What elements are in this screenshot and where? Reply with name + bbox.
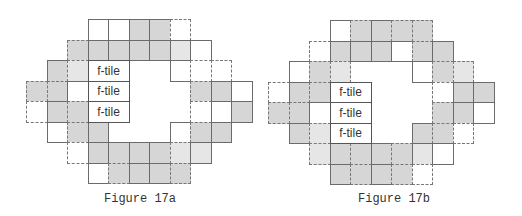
tile-cell: [432, 102, 454, 124]
tile-cell: [453, 82, 475, 104]
tile-cell: [330, 61, 352, 83]
tile-cell: [268, 82, 290, 104]
tile-cell: [108, 40, 130, 62]
tile-cell: [211, 101, 233, 123]
tile-cell: [67, 60, 89, 82]
tile-cell: [350, 164, 372, 186]
tile-cell: [88, 19, 110, 41]
tile-cell: [330, 20, 352, 42]
tile-cell: [88, 142, 110, 164]
tile-cell: [47, 101, 69, 123]
f-tile: f-tile: [330, 82, 372, 104]
caption-17b: Figure 17b: [358, 192, 430, 206]
tile-cell: [170, 122, 192, 144]
tile-cell: [371, 41, 393, 63]
tile-cell: [289, 102, 311, 124]
tile-cell: [129, 163, 151, 185]
tile-cell: [391, 20, 413, 42]
tile-cell: [391, 164, 413, 186]
tile-cell: [473, 82, 495, 104]
tile-cell: [190, 60, 212, 82]
tile-cell: [330, 164, 352, 186]
tile-cell: [309, 102, 331, 124]
tile-cell: [47, 122, 69, 144]
f-tile: f-tile: [88, 60, 130, 82]
tile-cell: [350, 41, 372, 63]
tile-cell: [412, 20, 434, 42]
caption-17a: Figure 17a: [104, 192, 176, 206]
tile-cell: [211, 81, 233, 103]
tile-cell: [129, 40, 151, 62]
tile-cell: [88, 40, 110, 62]
tile-cell: [149, 163, 171, 185]
tile-cell: [211, 60, 233, 82]
tile-cell: [309, 41, 331, 63]
tile-cell: [309, 61, 331, 83]
tile-cell: [190, 81, 212, 103]
tile-cell: [330, 41, 352, 63]
tile-cell: [371, 20, 393, 42]
tile-cell: [371, 143, 393, 165]
tile-cell: [149, 19, 171, 41]
tile-cell: [67, 101, 89, 123]
tile-cell: [129, 142, 151, 164]
tile-cell: [473, 102, 495, 124]
tile-cell: [350, 143, 372, 165]
tile-cell: [330, 143, 352, 165]
tile-cell: [309, 123, 331, 145]
tile-cell: [190, 142, 212, 164]
tile-cell: [432, 143, 454, 165]
tile-cell: [190, 40, 212, 62]
f-tile: f-tile: [88, 81, 130, 103]
tile-cell: [391, 143, 413, 165]
tile-cell: [350, 20, 372, 42]
f-tile: f-tile: [330, 102, 372, 124]
tile-cell: [67, 40, 89, 62]
tile-cell: [170, 142, 192, 164]
tile-cell: [67, 122, 89, 144]
tile-cell: [412, 41, 434, 63]
tile-cell: [108, 19, 130, 41]
tile-cell: [309, 143, 331, 165]
tile-cell: [289, 61, 311, 83]
tile-cell: [412, 143, 434, 165]
tile-cell: [149, 142, 171, 164]
tile-cell: [88, 163, 110, 185]
f-tile: f-tile: [330, 123, 372, 145]
tile-cell: [289, 123, 311, 145]
tile-cell: [67, 81, 89, 103]
tile-cell: [26, 101, 48, 123]
tile-cell: [412, 61, 434, 83]
tile-cell: [129, 19, 151, 41]
tile-cell: [453, 61, 475, 83]
tile-cell: [170, 60, 192, 82]
tile-cell: [190, 122, 212, 144]
tile-cell: [211, 122, 233, 144]
tile-cell: [412, 164, 434, 186]
tile-cell: [108, 142, 130, 164]
tile-cell: [149, 40, 171, 62]
tile-cell: [268, 102, 290, 124]
tile-cell: [47, 60, 69, 82]
tile-cell: [170, 40, 192, 62]
tile-cell: [371, 164, 393, 186]
tile-cell: [47, 81, 69, 103]
tile-cell: [391, 41, 413, 63]
tile-cell: [432, 41, 454, 63]
tile-cell: [453, 102, 475, 124]
tile-cell: [231, 101, 253, 123]
tile-cell: [309, 82, 331, 104]
tile-cell: [412, 123, 434, 145]
tile-cell: [432, 123, 454, 145]
tile-cell: [289, 82, 311, 104]
tile-cell: [88, 122, 110, 144]
tile-cell: [432, 82, 454, 104]
tile-cell: [453, 123, 475, 145]
tile-cell: [231, 81, 253, 103]
f-tile: f-tile: [88, 101, 130, 123]
tile-cell: [170, 19, 192, 41]
tile-cell: [67, 142, 89, 164]
tile-cell: [26, 81, 48, 103]
tile-cell: [108, 163, 130, 185]
tile-cell: [432, 61, 454, 83]
